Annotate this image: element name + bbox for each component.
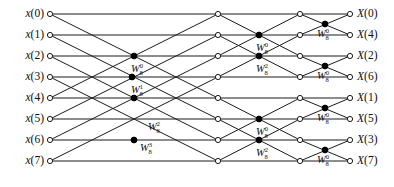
- output-label-2: X(2): [357, 50, 377, 62]
- node-col3-row2: [347, 53, 352, 58]
- twiddle-node-2: [131, 137, 137, 143]
- nodes-layer: [47, 11, 352, 163]
- node-col1-row5: [215, 116, 220, 121]
- node-col2-row6: [297, 137, 302, 142]
- input-label-3: x(3): [25, 71, 44, 83]
- input-label-5: x(5): [25, 113, 44, 125]
- node-col0-row0: [47, 11, 52, 16]
- output-label-0: X(0): [357, 8, 377, 20]
- output-label-5: X(5): [357, 113, 377, 125]
- output-label-6: X(3): [357, 134, 377, 146]
- twiddle-factor-label-10: W08: [317, 113, 329, 124]
- node-col0-row4: [47, 95, 52, 100]
- node-col1-row1: [215, 32, 220, 37]
- node-col2-row5: [297, 116, 302, 121]
- twiddle-node-5: [256, 53, 262, 59]
- node-col2-row3: [297, 74, 302, 79]
- node-col1-row2: [215, 53, 220, 58]
- twiddle-node-6: [256, 116, 262, 122]
- twiddle-factor-label-8: W08: [317, 29, 329, 40]
- node-col3-row4: [347, 95, 352, 100]
- twiddle-node-7: [256, 137, 262, 143]
- twiddle-factor-label-2: W28: [148, 122, 160, 133]
- input-label-0: x(0): [25, 8, 44, 20]
- node-col0-row2: [47, 53, 52, 58]
- node-col0-row3: [47, 74, 52, 79]
- twiddle-factor-label-5: W28: [256, 64, 268, 75]
- node-col1-row4: [215, 95, 220, 100]
- node-col2-row7: [297, 158, 302, 163]
- flow-graph-canvas: [0, 0, 394, 187]
- input-label-6: x(6): [25, 134, 44, 146]
- node-col2-row4: [297, 95, 302, 100]
- node-col2-row2: [297, 53, 302, 58]
- output-label-1: X(4): [357, 29, 377, 41]
- input-label-1: x(1): [25, 29, 44, 41]
- node-col1-row0: [215, 11, 220, 16]
- output-label-7: X(7): [357, 155, 377, 167]
- node-col1-row7: [215, 158, 220, 163]
- node-col0-row1: [47, 32, 52, 37]
- node-col1-row3: [215, 74, 220, 79]
- twiddle-factor-label-0: W08: [131, 64, 143, 75]
- node-col1-row6: [215, 137, 220, 142]
- twiddle-factor-label-11: W08: [317, 155, 329, 166]
- node-col0-row5: [47, 116, 52, 121]
- node-col2-row0: [297, 11, 302, 16]
- twiddle-node-3: [129, 74, 135, 80]
- twiddle-factor-label-3: W38: [140, 143, 152, 154]
- twiddle-factor-label-6: W08: [256, 127, 268, 138]
- twiddle-factor-label-4: W08: [256, 43, 268, 54]
- node-col3-row1: [347, 32, 352, 37]
- node-col0-row6: [47, 137, 52, 142]
- node-col3-row3: [347, 74, 352, 79]
- node-col3-row0: [347, 11, 352, 16]
- input-label-7: x(7): [25, 155, 44, 167]
- twiddle-node-4: [256, 32, 262, 38]
- output-label-3: X(6): [357, 71, 377, 83]
- node-col3-row7: [347, 158, 352, 163]
- node-col0-row7: [47, 158, 52, 163]
- twiddle-node-1: [131, 95, 137, 101]
- twiddle-node-0: [131, 53, 137, 59]
- edges-layer: [50, 14, 350, 161]
- twiddle-factor-label-9: W08: [317, 71, 329, 82]
- input-label-2: x(2): [25, 50, 44, 62]
- node-col3-row6: [347, 137, 352, 142]
- twiddle-factor-label-1: W18: [131, 85, 143, 96]
- output-label-4: X(1): [357, 92, 377, 104]
- twiddle-factor-label-7: W28: [256, 148, 268, 159]
- input-label-4: x(4): [25, 92, 44, 104]
- fft-butterfly-diagram: x(0)x(1)x(2)x(3)x(4)x(5)x(6)x(7) X(0)X(4…: [0, 0, 394, 187]
- node-col2-row1: [297, 32, 302, 37]
- node-col3-row5: [347, 116, 352, 121]
